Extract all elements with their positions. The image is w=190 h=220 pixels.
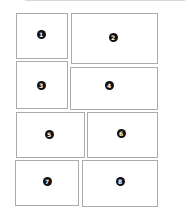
panel-number-badge-3: 3 [37,81,46,90]
panel-number-badge-6: 6 [117,129,126,138]
panel-4 [70,67,158,110]
panel-number-badge-5: 5 [45,130,54,139]
panel-number-badge-7: 7 [43,177,52,186]
panel-number-badge-4: 4 [105,81,114,90]
panel-number-badge-8: 8 [116,177,125,186]
panel-number-badge-1: 1 [37,30,46,39]
panel-number-badge-2: 2 [109,33,118,42]
top-divider [25,0,185,1]
